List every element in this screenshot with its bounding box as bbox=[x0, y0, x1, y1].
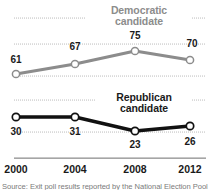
chart-container: Democratic candidate Republican candidat… bbox=[0, 0, 210, 190]
data-point-republican-2004 bbox=[71, 113, 78, 120]
value-label-republican-2004: 31 bbox=[63, 126, 87, 137]
value-label-democratic-2000: 61 bbox=[4, 54, 28, 65]
x-tick-label-2012: 2012 bbox=[170, 163, 210, 175]
source-note: Source: Exit poll results reported by th… bbox=[2, 182, 210, 190]
series-title-republican-line2: candidate bbox=[98, 103, 190, 114]
data-point-republican-2008 bbox=[131, 127, 138, 134]
series-title-republican: Republican candidate bbox=[96, 92, 192, 114]
data-point-democratic-2008 bbox=[131, 47, 138, 54]
x-axis-labels: 2000 2004 2008 2012 bbox=[0, 163, 210, 179]
value-label-democratic-2004: 67 bbox=[63, 41, 87, 52]
data-point-democratic-2004 bbox=[71, 60, 78, 67]
series-line-republican bbox=[12, 113, 193, 134]
data-point-democratic-2000 bbox=[12, 70, 19, 77]
series-line-democratic bbox=[12, 47, 193, 77]
value-label-republican-2000: 30 bbox=[4, 126, 28, 137]
x-tick-label-2000: 2000 bbox=[0, 163, 36, 175]
value-label-republican-2008: 23 bbox=[123, 139, 147, 150]
data-point-democratic-2012 bbox=[186, 56, 193, 63]
series-title-democratic: Democratic candidate bbox=[86, 5, 192, 27]
series-title-democratic-line2: candidate bbox=[88, 16, 190, 27]
x-tick-label-2004: 2004 bbox=[55, 163, 95, 175]
value-label-republican-2012: 26 bbox=[178, 136, 202, 147]
x-axis-baseline bbox=[14, 158, 206, 159]
data-point-republican-2000 bbox=[12, 113, 19, 120]
value-label-democratic-2012: 70 bbox=[180, 38, 204, 49]
value-label-democratic-2008: 75 bbox=[123, 30, 147, 41]
data-point-republican-2012 bbox=[186, 122, 193, 129]
x-tick-label-2008: 2008 bbox=[115, 163, 155, 175]
